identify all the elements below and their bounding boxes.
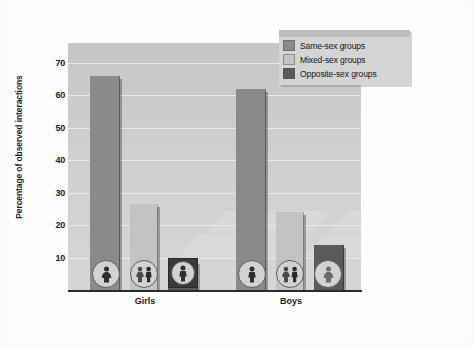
- mixed-female-male-icon: [130, 260, 158, 288]
- chart-legend: Same-sex groups Mixed-sex groups Opposit…: [279, 30, 410, 85]
- bar-shadow: [303, 215, 306, 290]
- x-tick-label-girls: Girls: [115, 296, 175, 306]
- y-tick-10: 10: [43, 253, 65, 263]
- chart-figure: Percentage of observed interactions 70 6…: [0, 0, 474, 346]
- legend-item-opposite-sex: Opposite-sex groups: [283, 67, 406, 80]
- y-tick-40: 40: [43, 155, 65, 165]
- female-icon: [314, 260, 342, 288]
- bar-shadow: [119, 79, 122, 291]
- x-tick-label-boys: Boys: [261, 296, 321, 306]
- female-icon: [92, 260, 120, 288]
- legend-swatch-opposite-sex: [283, 68, 295, 79]
- bar-shadow: [265, 92, 268, 291]
- bar-girls-same-sex: [90, 76, 120, 291]
- legend-label-same-sex: Same-sex groups: [300, 41, 365, 51]
- y-axis-title: Percentage of observed interactions: [14, 67, 24, 227]
- y-tick-20: 20: [43, 220, 65, 230]
- bar-shadow: [343, 248, 346, 291]
- x-axis-line: [68, 290, 362, 292]
- watermark-arrow-upper-right: [330, 211, 361, 233]
- mixed-female-male-icon: [276, 260, 304, 288]
- legend-items: Same-sex groups Mixed-sex groups Opposit…: [279, 37, 410, 85]
- y-tick-70: 70: [43, 58, 65, 68]
- y-axis-ticks: 70 60 50 40 30 20 10: [40, 43, 65, 290]
- legend-label-opposite-sex: Opposite-sex groups: [300, 69, 377, 79]
- watermark-arrow-upper-left: [206, 211, 330, 233]
- y-tick-30: 30: [43, 188, 65, 198]
- male-icon: [168, 258, 198, 288]
- legend-header-bar: [279, 30, 410, 37]
- legend-swatch-same-sex: [283, 40, 295, 51]
- legend-swatch-mixed-sex: [283, 54, 295, 65]
- y-tick-50: 50: [43, 123, 65, 133]
- y-tick-60: 60: [43, 90, 65, 100]
- legend-item-same-sex: Same-sex groups: [283, 39, 406, 52]
- legend-label-mixed-sex: Mixed-sex groups: [300, 55, 365, 65]
- male-icon: [238, 260, 266, 288]
- legend-item-mixed-sex: Mixed-sex groups: [283, 53, 406, 66]
